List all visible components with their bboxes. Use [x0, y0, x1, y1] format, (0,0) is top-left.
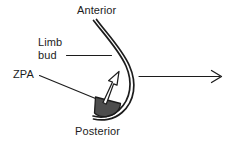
label-limb-bud-line1: Limb: [38, 36, 62, 48]
label-limb-bud-line2: bud: [38, 49, 57, 61]
zpa-signal-arrow: [103, 72, 119, 105]
growth-arrow: [139, 71, 222, 83]
limb-bud-diagram: Anterior Limbbud ZPA Posterior: [0, 0, 231, 143]
label-limb-bud: Limbbud: [38, 36, 62, 61]
label-posterior: Posterior: [75, 125, 120, 138]
label-anterior: Anterior: [77, 4, 116, 17]
zpa-leader-line: [40, 76, 96, 99]
label-zpa: ZPA: [13, 68, 34, 81]
diagram-canvas: [0, 0, 231, 143]
